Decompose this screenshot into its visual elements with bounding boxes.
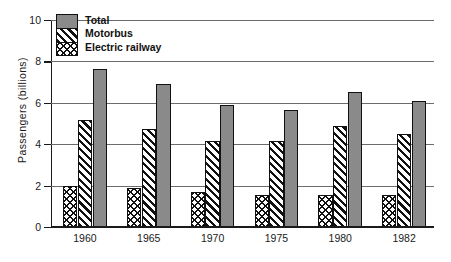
y-axis-title: Passengers (billions) (16, 30, 28, 190)
y-tick-mark (44, 103, 51, 104)
y-tick-mark (44, 227, 51, 228)
bar-electric-1982 (382, 195, 396, 227)
legend-swatch-electric (57, 42, 77, 55)
bar-total-1975 (284, 110, 298, 227)
x-tick-label: 1970 (201, 232, 224, 244)
bar-electric-1965 (127, 188, 141, 227)
y-tick-label: 4 (35, 138, 41, 150)
legend-label-electric: Electric railway (85, 41, 161, 54)
bar-electric-1975 (255, 195, 269, 227)
y-tick-mark (44, 186, 51, 187)
y-tick-label: 2 (35, 180, 41, 192)
bar-total-1982 (412, 101, 426, 227)
bar-electric-1960 (63, 186, 77, 227)
bar-electric-1980 (318, 195, 332, 227)
chart-legend: TotalMotorbusElectric railway (56, 14, 161, 56)
x-tick-label: 1980 (329, 232, 352, 244)
x-tick-label: 1982 (392, 232, 415, 244)
bar-group (243, 20, 307, 227)
legend-label-list: TotalMotorbusElectric railway (85, 14, 161, 54)
bar-total-1970 (220, 105, 234, 227)
x-tick-label: 1975 (265, 232, 288, 244)
bar-total-1960 (93, 69, 107, 227)
y-tick-label: 10 (29, 14, 41, 26)
y-tick-mark (44, 20, 51, 21)
bar-total-1965 (156, 84, 170, 227)
x-axis-line (51, 226, 434, 227)
bar-group (306, 20, 370, 227)
y-tick-mark (44, 61, 51, 62)
y-tick-label: 8 (35, 55, 41, 67)
bar-motorbus-1982 (397, 134, 411, 227)
legend-swatch-total (57, 15, 77, 28)
gridline (51, 227, 434, 228)
y-tick-mark (44, 144, 51, 145)
bar-motorbus-1975 (269, 141, 283, 227)
legend-label-motorbus: Motorbus (85, 27, 161, 40)
bar-electric-1970 (191, 192, 205, 227)
bar-group (370, 20, 434, 227)
bar-motorbus-1980 (333, 126, 347, 227)
bar-group (179, 20, 243, 227)
bar-total-1980 (348, 92, 362, 227)
bar-chart: Passengers (billions) 0246810 1960196519… (0, 0, 451, 262)
x-tick-label: 1965 (137, 232, 160, 244)
x-axis-labels: 196019651970197519801982 (51, 232, 434, 252)
legend-label-total: Total (85, 14, 161, 27)
y-tick-label: 0 (35, 221, 41, 233)
legend-swatch-motorbus (57, 28, 77, 41)
bar-motorbus-1960 (78, 120, 92, 227)
bar-motorbus-1970 (205, 141, 219, 227)
x-tick-label: 1960 (73, 232, 96, 244)
bar-motorbus-1965 (142, 129, 156, 227)
y-tick-label: 6 (35, 97, 41, 109)
legend-swatch-box (56, 14, 78, 56)
